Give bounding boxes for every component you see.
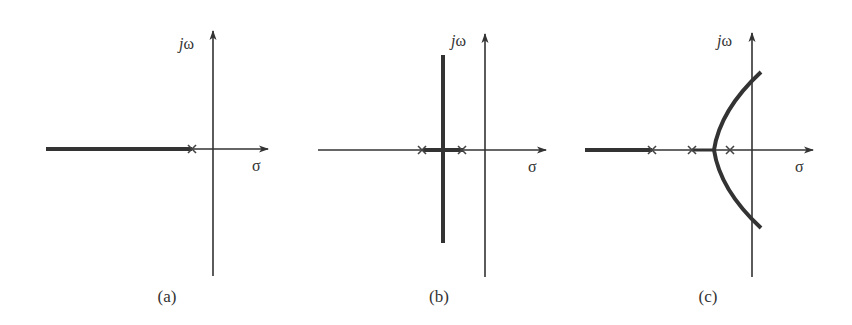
real-axis-label: σ xyxy=(795,158,804,175)
imaginary-axis-label: jω xyxy=(715,32,732,50)
panel-b: jω σ (b) xyxy=(318,32,546,306)
panel-caption: (c) xyxy=(699,287,718,306)
imaginary-axis-label: jω xyxy=(177,35,194,53)
panel-caption: (a) xyxy=(158,287,177,306)
real-axis-label: σ xyxy=(528,158,537,175)
root-locus-figure: jω σ (a) jω σ (b) jω σ xyxy=(0,0,852,325)
panel-caption: (b) xyxy=(429,287,449,306)
panel-a: jω σ (a) xyxy=(46,31,268,306)
imaginary-axis-label: jω xyxy=(449,32,466,50)
real-axis-label: σ xyxy=(252,157,261,174)
panel-c: jω σ (c) xyxy=(585,32,813,306)
